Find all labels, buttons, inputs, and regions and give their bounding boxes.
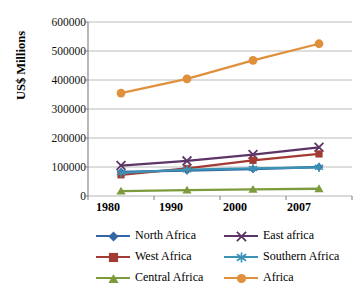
- legend-marker-x-icon: [224, 229, 258, 243]
- legend-label: Central Africa: [135, 270, 203, 285]
- data-point-circle: [315, 39, 324, 48]
- legend-marker-diamond-icon: [96, 229, 130, 243]
- legend-marker-asterisk-icon: [224, 250, 258, 264]
- data-point-circle: [183, 74, 192, 83]
- legend: North Africa East africa West Africa Sou…: [96, 226, 360, 288]
- series-central-africa: [116, 184, 323, 194]
- legend-item-africa[interactable]: Africa: [224, 268, 294, 287]
- legend-label: North Africa: [135, 228, 196, 243]
- legend-label: Southern Africa: [263, 249, 339, 264]
- data-point-square: [315, 150, 322, 157]
- data-point-circle: [249, 56, 258, 65]
- legend-label: East africa: [263, 228, 314, 243]
- legend-item-north-africa[interactable]: North Africa: [96, 226, 196, 245]
- legend-item-southern-africa[interactable]: Southern Africa: [224, 247, 339, 266]
- plot-area: [0, 0, 363, 215]
- data-point-square: [249, 157, 256, 164]
- data-point-circle: [117, 89, 126, 98]
- series-line: [121, 189, 319, 191]
- line-chart: US$ Millions 600000 500000 400000 300000…: [0, 0, 363, 290]
- series-layer: [116, 39, 323, 194]
- legend-label: West Africa: [135, 249, 192, 264]
- legend-marker-circle-icon: [224, 271, 258, 285]
- x-tick-label: 1980: [80, 200, 136, 215]
- series-africa: [117, 39, 324, 97]
- series-line: [121, 167, 319, 173]
- legend-item-east-africa[interactable]: East africa: [224, 226, 314, 245]
- x-tick-label: 1990: [143, 200, 199, 215]
- x-tick-label: 2000: [207, 200, 263, 215]
- legend-item-central-africa[interactable]: Central Africa: [96, 268, 203, 287]
- legend-label: Africa: [263, 270, 294, 285]
- legend-marker-triangle-icon: [96, 271, 130, 285]
- x-tick-label: 2007: [271, 200, 327, 215]
- legend-marker-square-icon: [96, 250, 130, 264]
- legend-item-west-africa[interactable]: West Africa: [96, 247, 192, 266]
